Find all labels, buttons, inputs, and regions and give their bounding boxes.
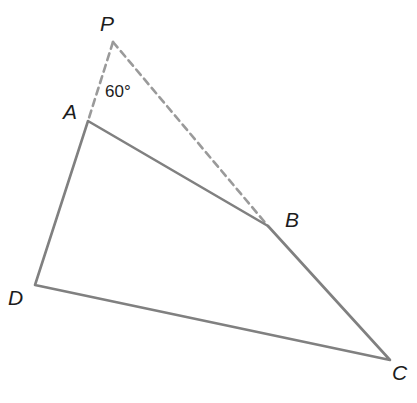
vertex-label-C: C xyxy=(392,361,408,384)
geometry-diagram-canvas: P A B C D 60° xyxy=(0,0,417,403)
vertex-label-A: A xyxy=(61,100,77,123)
angle-label-60-degrees: 60° xyxy=(105,82,131,101)
vertex-label-D: D xyxy=(8,286,23,309)
vertex-label-B: B xyxy=(285,208,299,231)
vertex-label-P: P xyxy=(100,12,114,35)
geometry-figure: P A B C D 60° xyxy=(0,0,417,403)
